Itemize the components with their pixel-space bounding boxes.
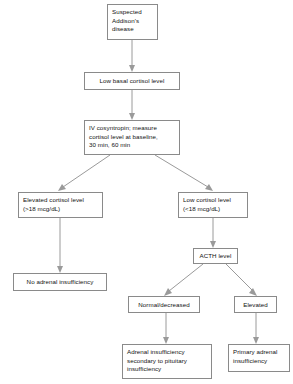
node-low-cortisol: Low cortisol level (<18 mcg/dL) [178,192,248,218]
edge-elevated-to-primary [253,313,259,344]
node-acth-level: ACTH level [193,248,238,264]
node-primary-adrenal-insufficiency: Primary adrenal insufficiency [228,344,290,372]
node-secondary-adrenal-insufficiency: Adrenal insufficiency secondary to pitui… [122,344,212,379]
edge-acth-to-elevated [226,264,257,296]
edge-acth-to-normal-decreased [164,264,203,296]
flowchart-canvas: Suspected Addison's disease Low basal co… [0,0,293,384]
node-elevated-cortisol: Elevated cortisol level (>18 mcg/dL) [18,192,103,218]
node-suspected-addisons: Suspected Addison's disease [107,4,158,40]
node-cosyntropin-test: IV cosyntropin; measure cortisol level a… [84,120,180,155]
edge-elevated-to-no-insufficiency [57,218,63,273]
node-no-adrenal-insufficiency: No adrenal insufficiency [13,273,107,291]
edge-low-cortisol-to-acth [210,218,216,248]
node-acth-elevated: Elevated [234,296,277,313]
node-low-basal-cortisol: Low basal cortisol level [84,72,180,90]
edge-normal-to-secondary [163,313,169,344]
edge-low-basal-to-cosyntropin [129,90,135,120]
node-acth-normal-decreased: Normal/decreased [128,296,200,313]
edge-cosyntropin-to-low-cortisol [155,155,213,191]
edge-suspected-to-low-basal [129,40,135,72]
edge-cosyntropin-to-elevated [58,155,110,191]
